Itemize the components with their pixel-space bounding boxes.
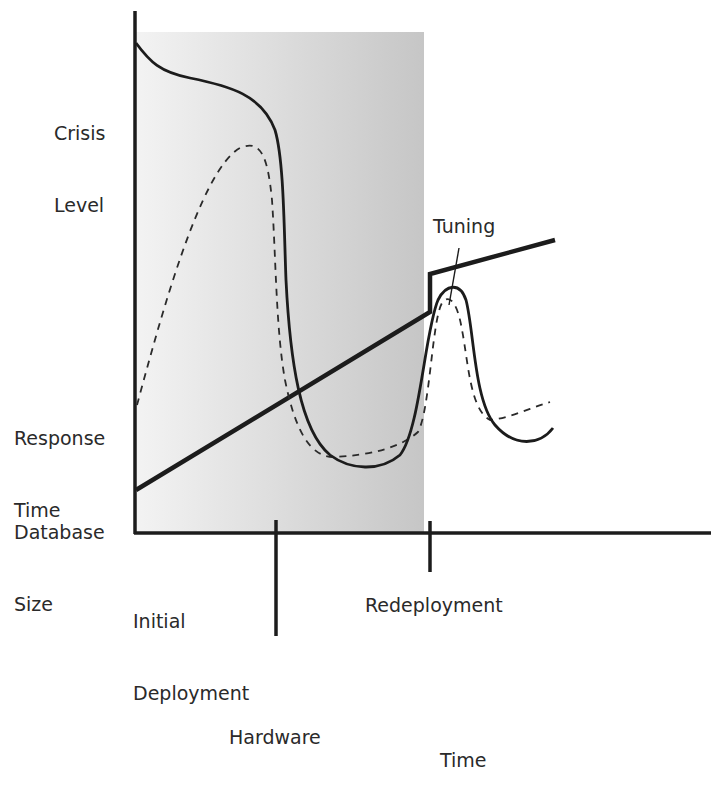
label-hardware-upgrades: Hardware Upgrades & Tuning <box>229 677 321 787</box>
label-database-size: Database Size <box>14 472 105 640</box>
tuning-pointer <box>449 248 459 305</box>
label-crisis-level: Crisis Level <box>54 73 105 241</box>
label-time: Time <box>440 748 487 772</box>
label-redeployment: Redeployment <box>365 593 503 617</box>
label-tuning: Tuning <box>433 214 495 238</box>
shaded-deployment-region <box>136 32 424 533</box>
crisis-timeline-diagram <box>0 0 721 787</box>
